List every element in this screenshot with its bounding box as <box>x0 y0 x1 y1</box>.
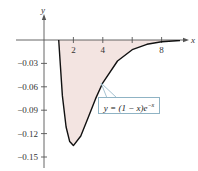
y-tick-label: −0.06 <box>17 82 38 92</box>
y-tick-label: −0.09 <box>17 105 38 115</box>
y-tick-label: −0.15 <box>17 152 38 162</box>
function-label-exponent: −x <box>147 102 154 108</box>
y-tick-label: −0.03 <box>17 58 38 68</box>
label-pointer <box>101 83 117 98</box>
x-tick-label: 2 <box>71 45 76 55</box>
shaded-area <box>59 40 180 146</box>
function-label: y = (1 − x)e−x <box>98 97 160 114</box>
y-axis-label: y <box>40 5 45 15</box>
chart: 2 4 8 −0.03 −0.06 −0.09 −0.12 −0.15 x y <box>0 0 198 171</box>
x-axis-label: x <box>190 35 195 45</box>
function-label-text: y = (1 − x)e <box>104 103 148 113</box>
x-tick-label: 4 <box>101 45 106 55</box>
y-tick-label: −0.12 <box>17 129 38 139</box>
x-axis-arrow-icon <box>183 38 189 42</box>
x-tick-label: 8 <box>159 45 164 55</box>
